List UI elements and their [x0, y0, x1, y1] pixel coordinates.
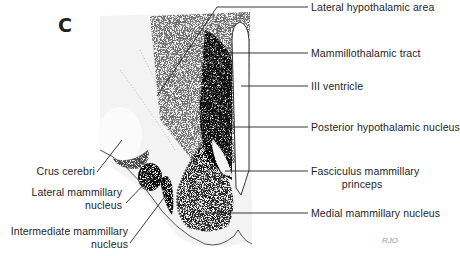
label-crus-cerebri: Crus cerebri [0, 165, 95, 177]
panel-letter: C [58, 14, 72, 36]
label-medial-mammillary-nucleus: Medial mammillary nucleus [311, 207, 440, 219]
label-lateral-hypothalamic-area: Lateral hypothalamic area [311, 1, 434, 13]
label-princeps: princeps [322, 178, 402, 190]
label-lateral-mammillary-nucleus-line2: nucleus [0, 199, 122, 211]
label-intermediate-mammillary: Intermediate mammillary [0, 225, 128, 237]
label-posterior-hypothalamic-nucleus: Posterior hypothalamic nucleus [311, 121, 460, 133]
label-lateral-mammillary: Lateral mammillary [0, 186, 122, 198]
label-intermediate-mammillary-nucleus-line2: nucleus [0, 238, 128, 250]
label-mammillothalamic-tract: Mammillothalamic tract [311, 47, 421, 59]
label-iii-ventricle: III ventricle [311, 80, 363, 92]
artist-signature: RJO [382, 236, 398, 245]
label-fasciculus-mammillary: Fasciculus mammillary [311, 165, 419, 177]
